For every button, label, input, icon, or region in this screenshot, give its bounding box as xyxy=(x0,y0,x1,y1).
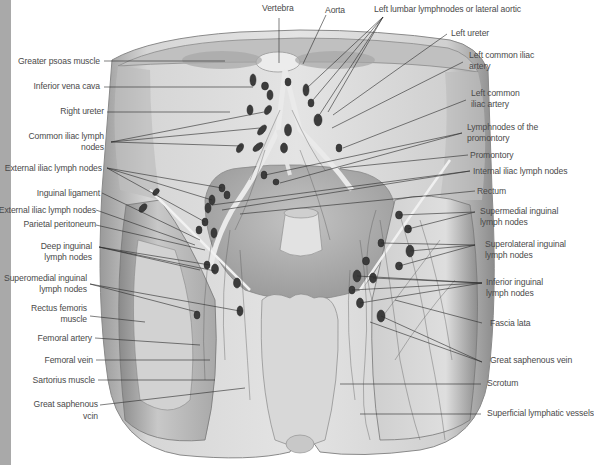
label-lymphnodes-of-the-promontory-line2: promontory xyxy=(467,133,509,144)
label-sartorius-muscle: Sartorius muscle xyxy=(33,375,95,386)
label-right-ureter: Right ureter xyxy=(60,106,104,117)
label-fascia-lata: Fascia lata xyxy=(490,318,530,329)
label-rectum: Rectum xyxy=(477,186,506,197)
label-external-iliac-lymph-nodes-a: External iliac lymph nodes xyxy=(5,163,102,174)
label-promontory: Promontory xyxy=(470,150,513,161)
label-femoral-artery: Femoral artery xyxy=(38,333,92,344)
label-inferior-inguinal-lymph-nodes-line2: lymph nodes xyxy=(486,288,534,299)
label-inguinal-ligament: Inguinal ligament xyxy=(37,188,100,199)
vertebra-body xyxy=(256,52,300,72)
label-scrotum: Scrotum xyxy=(487,378,518,389)
label-superomedial-inguinal-lymph-nodes-line2: lymph nodes xyxy=(39,284,87,295)
label-inferior-vena-cava: Inferior vena cava xyxy=(33,81,100,92)
label-superficial-lymphatic-vessels: Superficial lymphatic vessels xyxy=(487,408,594,419)
label-supermedial-inguinal-lymph-nodes-line2: lymph nodes xyxy=(480,217,528,228)
label-internal-iliac-lymph-nodes: Internal iliac lymph nodes xyxy=(473,166,567,177)
left-thigh xyxy=(372,196,478,440)
label-deep-inguinal-lymph-nodes-line1: Deep inguinal xyxy=(41,241,92,252)
label-common-iliac-lymph-nodes-line1: Common iliac lymph xyxy=(28,131,104,142)
glans xyxy=(286,435,314,453)
label-aorta: Aorta xyxy=(325,5,345,16)
label-left-ureter: Left ureter xyxy=(451,28,489,39)
label-external-iliac-lymph-nodes-b: External iliac lymph nodes xyxy=(0,205,96,216)
label-left-common-iliac-artery-b-line1: Left common xyxy=(471,88,520,99)
label-superolateral-inguinal-lymph-nodes-line1: Superolateral inguinal xyxy=(485,239,566,250)
scrotum xyxy=(261,294,338,446)
label-inferior-inguinal-lymph-nodes-line1: Inferior inguinal xyxy=(486,277,543,288)
label-great-saphenous-vein-left-line2: vcin xyxy=(83,411,98,422)
label-superomedial-inguinal-lymph-nodes-line1: Superomedial inguinal xyxy=(4,273,87,284)
label-rectus-femoris-muscle-line1: Rectus femoris xyxy=(31,303,87,314)
label-great-saphenous-vein-left-line1: Great saphenous xyxy=(34,399,98,410)
label-left-common-iliac-artery-a-line1: Left common iliac xyxy=(469,50,534,61)
label-rectus-femoris-muscle-line2: muscle xyxy=(60,314,87,325)
label-left-common-iliac-artery-b-line2: iliac artery xyxy=(471,99,509,110)
label-supermedial-inguinal-lymph-nodes-line1: Supermedial inguinal xyxy=(480,206,558,217)
label-femoral-vein: Femoral vein xyxy=(45,355,93,366)
label-lymphnodes-of-the-promontory-line1: Lymphnodes of the xyxy=(467,122,538,133)
label-left-common-iliac-artery-a-line2: artery xyxy=(469,61,490,72)
label-great-saphenous-vein-right: Great saphenous vein xyxy=(490,355,572,366)
label-greater-psoas-muscle: Greater psoas muscle xyxy=(18,56,100,67)
label-left-lumbar-lymphnodes: Left lumbar lymphnodes or lateral aortic xyxy=(374,4,521,15)
label-parietal-peritoneum: Parietal peritoneum xyxy=(23,219,96,230)
label-superolateral-inguinal-lymph-nodes-line2: lymph nodes xyxy=(485,250,533,261)
label-common-iliac-lymph-nodes-line2: nodes xyxy=(81,142,104,153)
label-deep-inguinal-lymph-nodes-line2: lymph nodes xyxy=(44,252,92,263)
label-vertebra: Vertebra xyxy=(262,3,294,14)
